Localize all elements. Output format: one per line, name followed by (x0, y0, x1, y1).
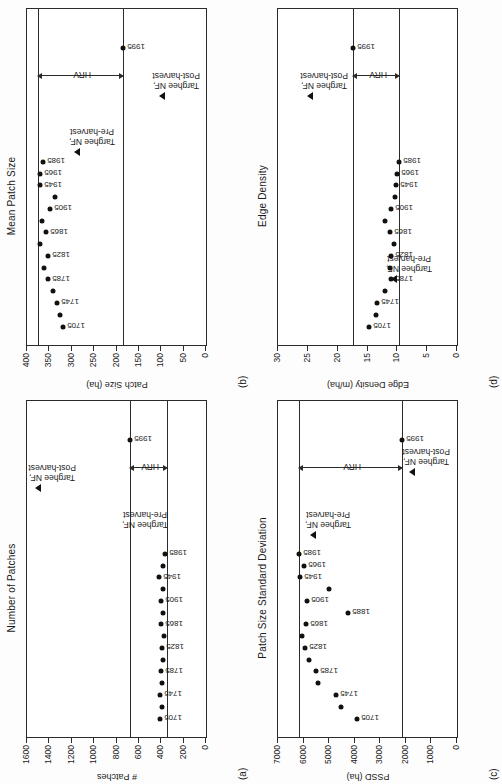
panel-a-pre_harvest-label-line1: Targhee NF, (122, 520, 168, 530)
panel-b-ytick-label: 300 (66, 353, 76, 367)
panel-d-data-point (366, 324, 371, 329)
panel-c-ytick-label: 5000 (323, 745, 333, 764)
panel-c-data-point (296, 551, 301, 556)
panel-c-ytick (456, 738, 457, 743)
panel-a-point-label: 1865 (165, 619, 183, 628)
panel-d-title: Edge Density (257, 0, 268, 392)
hrv-arrow-down-icon (119, 73, 124, 79)
panel-d-pre_harvest-annotation: Targhee NF,Pre-harvest (386, 254, 432, 274)
panel-a-yaxis: 16001400120010008006004002000 (26, 738, 207, 754)
panel-b-hrv-lower-line (123, 9, 124, 345)
panel-c-data-point (334, 693, 339, 698)
panel-d-data-point (383, 218, 388, 223)
panel-d-post_harvest-label-line2: Post-harvest (301, 71, 349, 81)
panel-b-point-1995 (120, 45, 125, 50)
panel-b-ytick (138, 346, 139, 351)
panel-b-ytick (160, 346, 161, 351)
panel-b-pre_harvest-annotation: Targhee NF,Pre-harvest (69, 126, 115, 146)
panel-a-data-point (159, 645, 164, 650)
panel-a-data-point (159, 598, 164, 603)
panel-c-letter: (c) (488, 768, 499, 780)
panel-a-hrv-upper-line (130, 401, 131, 737)
panel-b-hrv-label: HRV (74, 70, 92, 80)
panel-d-point-label: 1985 (403, 156, 421, 165)
panel-d-hrv-upper-line (353, 9, 354, 345)
panel-d-point-label: 1905 (396, 203, 414, 212)
panel-d-ytick-label: 10 (391, 353, 401, 362)
panel-b-ytick (71, 346, 72, 351)
panel-b-ytick (93, 346, 94, 351)
panel-b-data-point (40, 218, 45, 223)
panel-b-pre_harvest-label-line1: Targhee NF, (69, 136, 115, 146)
panel-a-data-point (161, 657, 166, 662)
panel-b-ytick-label: 0 (200, 353, 210, 358)
panel-a-point-label: 1705 (164, 713, 182, 722)
panel-a-pre_harvest-annotation: Targhee NF,Pre-harvest (122, 510, 168, 530)
panel-d-hrv-label: HRV (369, 70, 387, 80)
panel-d-plot-area: HRV1705174517851825186519051945196519851… (277, 8, 458, 346)
panel-a-post_harvest-annotation: Targhee NF,Post-harvest (28, 463, 76, 483)
panel-b-data-point (55, 301, 60, 306)
panel-c-point-label: 1865 (310, 619, 328, 628)
panel-d-point-label: 1945 (400, 180, 418, 189)
panel-b-ytick (183, 346, 184, 351)
panel-b-data-point (45, 277, 50, 282)
panel-b-point-label: 1985 (47, 156, 65, 165)
panel-a-ytick (183, 738, 184, 743)
panel-d-yaxis-label-wrap: Edge Density (m/ha) (277, 376, 458, 388)
panel-d-edge-density: Edge Density (d) Edge Density (m/ha) 302… (251, 0, 502, 392)
panel-d-data-point (389, 206, 394, 211)
hrv-arrow-up-icon (298, 465, 303, 471)
panel-d-ytick-label: 30 (272, 353, 282, 362)
panel-a-ytick-label: 1000 (88, 745, 98, 764)
panel-b-data-point (46, 253, 51, 258)
panel-a-ytick-label: 1600 (21, 745, 31, 764)
figure-canvas: Mean Patch Size (b) Patch Size (ha) 4003… (0, 0, 502, 784)
panel-a-data-point (159, 704, 164, 709)
panel-b-yaxis-label: Patch Size (ha) (86, 380, 148, 390)
panel-b-point-label: 1705 (67, 321, 85, 330)
panel-d-data-point (382, 289, 387, 294)
panel-d-ytick (277, 346, 278, 351)
panel-a-data-point (158, 693, 163, 698)
panel-d-ytick-label: 25 (302, 353, 312, 362)
panel-c-hrv-upper-line (299, 401, 300, 737)
panel-a-ytick (26, 738, 27, 743)
panel-b-point-label: 1905 (54, 203, 72, 212)
panel-a-point-label-1995: 1995 (134, 434, 152, 443)
panel-b-mean-patch-size: Mean Patch Size (b) Patch Size (ha) 4003… (0, 0, 251, 392)
panel-b-data-point (37, 183, 42, 188)
panel-b-ytick-label: 150 (133, 353, 143, 367)
panel-d-ytick (307, 346, 308, 351)
panel-b-point-label: 1945 (44, 180, 62, 189)
panel-b-ytick-label: 400 (21, 353, 31, 367)
panel-d-ytick (337, 346, 338, 351)
panel-c-ytick-label: 3000 (374, 745, 384, 764)
hrv-arrow-up-icon (129, 465, 134, 471)
hrv-arrow-down-icon (395, 73, 400, 79)
panel-c-ytick (328, 738, 329, 743)
panel-c-targhee-marker-icon (310, 531, 316, 539)
panel-a-plot-area: HRV170517451785182518651905194519851995T… (26, 400, 207, 738)
panel-c-ytick (303, 738, 304, 743)
panel-d-ytick-label: 5 (421, 353, 431, 358)
panel-d-ytick (396, 346, 397, 351)
panel-a-post_harvest-label-line2: Post-harvest (28, 463, 76, 473)
panel-a-ytick-label: 200 (178, 745, 188, 759)
panel-c-ytick-label: 1000 (425, 745, 435, 764)
panel-b-data-point (42, 265, 47, 270)
panel-b-post_harvest-label-line1: Targhee NF, (152, 81, 200, 91)
panel-c-point-1995 (399, 437, 404, 442)
panel-c-data-point (298, 575, 303, 580)
panel-c-data-point (346, 610, 351, 615)
panel-a-data-point (160, 681, 165, 686)
panel-a-ytick (48, 738, 49, 743)
panel-c-pre_harvest-annotation: Targhee NF,Pre-harvest (305, 510, 351, 530)
hrv-arrow-up-icon (37, 73, 42, 79)
panel-d-yaxis: 302520151050 (277, 346, 458, 362)
panel-c-point-label-1995: 1995 (406, 434, 424, 443)
panel-b-point-label: 1785 (52, 274, 70, 283)
panel-b-ytick-label: 50 (178, 353, 188, 362)
panel-c-point-label: 1985 (303, 548, 321, 557)
panel-d-point-label-1995: 1995 (357, 42, 375, 51)
